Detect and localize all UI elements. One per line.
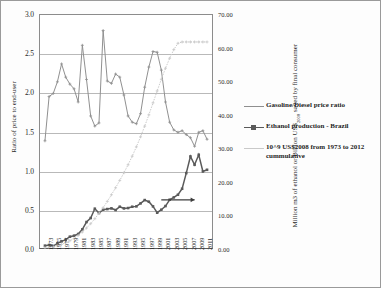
- data-point: [114, 186, 117, 189]
- legend-swatch-icon: [244, 144, 264, 153]
- y-axis-right-tick-label: 70.00: [218, 11, 233, 18]
- x-axis-tick-label: 1981: [80, 238, 87, 250]
- x-axis-tick-label: 1977: [63, 238, 70, 250]
- data-point: [56, 80, 59, 83]
- series-3: [43, 40, 208, 249]
- data-point: [193, 163, 196, 166]
- data-point: [160, 208, 163, 211]
- x-axis-tick-label: 1999: [156, 238, 163, 250]
- data-point: [77, 100, 80, 103]
- data-point: [152, 205, 155, 208]
- y-axis-left-tick-label: 2.5: [25, 49, 34, 58]
- data-point: [139, 135, 142, 138]
- data-point: [185, 40, 188, 43]
- y-axis-right-tick-label: 40.00: [218, 111, 233, 118]
- data-point: [73, 234, 76, 237]
- data-point: [122, 94, 125, 97]
- x-axis-tick-label: 1995: [139, 238, 146, 250]
- y-axis-left-title: Ratio of price to end-user: [10, 52, 18, 182]
- y-axis-right-tick-label: 30.00: [218, 145, 233, 152]
- data-point: [135, 205, 138, 208]
- legend-square-marker-icon: [251, 125, 256, 130]
- y-axis-left-tick-label: 1.0: [25, 166, 34, 175]
- data-point: [135, 122, 138, 125]
- data-point: [156, 211, 159, 214]
- data-point: [106, 200, 109, 203]
- data-point: [94, 207, 97, 210]
- data-point: [189, 40, 192, 43]
- data-point: [118, 205, 121, 208]
- legend-cross-marker-icon: [251, 145, 257, 151]
- data-point: [110, 207, 113, 210]
- legend-item-label: Ethanol production - Brazil: [266, 122, 349, 131]
- chart-figure: 0.00.51.01.52.02.53.0 Ratio of price to …: [0, 0, 381, 288]
- chart-legend: Gasoline/Diesel price ratioEthanol produ…: [244, 101, 380, 172]
- data-point: [135, 145, 138, 148]
- y-axis-left-ticks: 0.00.51.01.52.02.53.0: [1, 14, 37, 249]
- y-axis-right-tick-label: 10.00: [218, 212, 233, 219]
- x-axis-tick-label: 1985: [97, 238, 104, 250]
- data-point: [164, 100, 167, 103]
- data-point: [202, 170, 205, 173]
- data-point: [206, 40, 209, 43]
- data-point: [193, 40, 196, 43]
- series-line: [45, 31, 207, 147]
- data-point: [152, 101, 155, 104]
- y-axis-left-tick-label: 0.0: [25, 245, 34, 254]
- data-point: [43, 139, 46, 142]
- data-point: [127, 207, 130, 210]
- x-axis-tick-label: 2003: [173, 238, 180, 250]
- data-point: [110, 193, 113, 196]
- y-axis-left-tick-label: 0.5: [25, 205, 34, 214]
- x-axis-tick-label: 2001: [164, 238, 171, 250]
- data-point: [197, 131, 200, 134]
- x-axis-tick-label: 2011: [206, 238, 213, 250]
- y-axis-left-tick-label: 2.0: [25, 88, 34, 97]
- x-axis-tick-label: 1991: [122, 238, 129, 250]
- arrow-head: [191, 197, 195, 202]
- legend-cross-marker-icon: [251, 103, 257, 109]
- legend-item-3[interactable]: 10^9 US$2008 from 1973 to 2012 cummulati…: [244, 143, 380, 161]
- data-point: [93, 217, 96, 220]
- data-point: [106, 208, 109, 211]
- y-axis-left-tick-label: 3.0: [25, 10, 34, 19]
- data-point: [177, 193, 180, 196]
- data-point: [206, 168, 209, 171]
- data-point: [81, 44, 84, 47]
- data-point: [143, 199, 146, 202]
- x-axis-tick-label: 1975: [55, 238, 62, 250]
- data-point: [114, 209, 117, 212]
- y-axis-right-tick-label: 60.00: [218, 44, 233, 51]
- data-point: [164, 67, 167, 70]
- data-point: [172, 48, 175, 51]
- data-point: [156, 51, 159, 54]
- y-axis-right-tick-label: 50.00: [218, 78, 233, 85]
- data-point: [164, 205, 167, 208]
- data-point: [197, 40, 200, 43]
- y-axis-right-tick-label: 20.00: [218, 178, 233, 185]
- data-point: [60, 62, 63, 65]
- legend-item-label: Gasoline/Diesel price ratio: [266, 101, 345, 110]
- data-point: [85, 78, 88, 81]
- data-point: [118, 179, 121, 182]
- legend-item-1[interactable]: Gasoline/Diesel price ratio: [244, 101, 380, 111]
- data-point: [143, 125, 146, 128]
- data-point: [89, 114, 92, 117]
- x-axis-tick-label: 1993: [131, 238, 138, 250]
- legend-item-2[interactable]: Ethanol production - Brazil: [244, 122, 380, 132]
- x-axis-tick-label: 2009: [198, 238, 205, 250]
- x-axis-tick-label: 1983: [89, 238, 96, 250]
- data-point: [131, 205, 134, 208]
- x-axis-ticks: 1973197519771979198119831985198719891991…: [39, 250, 213, 288]
- data-point: [123, 207, 126, 210]
- legend-item-label: 10^9 US$2008 from 1973 to 2012 cummulati…: [266, 143, 380, 161]
- data-point: [139, 202, 142, 205]
- x-axis-tick-label: 1997: [148, 238, 155, 250]
- x-axis-tick-label: 1987: [105, 238, 112, 250]
- data-point: [147, 113, 150, 116]
- data-point: [176, 42, 179, 45]
- data-point: [160, 69, 163, 72]
- data-point: [189, 155, 192, 158]
- data-point: [181, 187, 184, 190]
- legend-swatch-icon: [244, 123, 264, 132]
